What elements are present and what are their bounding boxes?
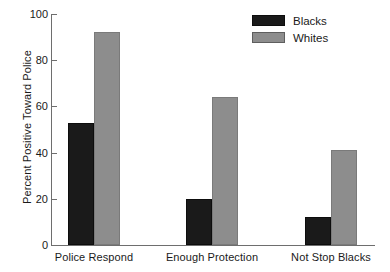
x-axis-category-label: Enough Protection — [166, 251, 258, 263]
legend-label-blacks: Blacks — [293, 15, 327, 27]
legend-swatch-whites-icon — [252, 32, 285, 43]
bar-whites-2 — [331, 150, 357, 245]
bar-blacks-2 — [305, 217, 331, 245]
bar-blacks-0 — [68, 123, 94, 245]
legend-label-whites: Whites — [293, 32, 328, 44]
bar-blacks-1 — [186, 199, 212, 245]
legend-swatch-blacks-icon — [252, 15, 285, 26]
legend-item-blacks: Blacks — [252, 13, 328, 28]
plot-area — [0, 0, 390, 272]
legend: Blacks Whites — [252, 13, 328, 47]
bar-whites-1 — [212, 97, 238, 245]
bar-chart: Percent Positive Toward Police 020406080… — [0, 0, 390, 272]
x-axis-category-label: Not Stop Blacks — [291, 251, 371, 263]
x-axis-category-label: Police Respond — [55, 251, 133, 263]
bar-whites-0 — [94, 32, 120, 245]
legend-item-whites: Whites — [252, 30, 328, 45]
